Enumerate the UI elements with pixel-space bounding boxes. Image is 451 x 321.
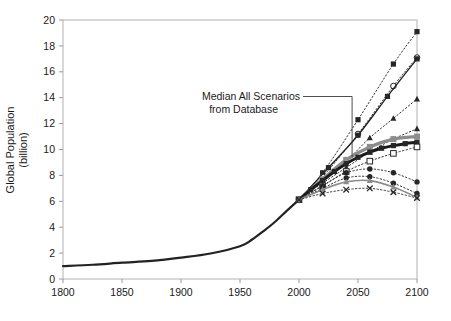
x-axis-tick-label: 2100 <box>405 286 429 298</box>
series-marker <box>403 141 408 146</box>
y-axis-tick-label: 14 <box>43 91 55 103</box>
y-axis-tick-label: 16 <box>43 65 55 77</box>
series-marker <box>344 170 349 175</box>
x-axis-tick-label: 1850 <box>110 286 134 298</box>
series-marker <box>320 178 325 183</box>
y-axis-title: Global Population(billion) <box>4 107 29 194</box>
series-marker <box>344 161 349 166</box>
series-marker <box>391 151 397 157</box>
series-marker <box>391 61 396 66</box>
series-marker <box>379 146 384 151</box>
series-marker <box>367 149 372 154</box>
x-axis-tick-label: 1950 <box>228 286 252 298</box>
y-axis-tick-label: 4 <box>49 221 55 233</box>
y-axis-tick-label: 10 <box>43 143 55 155</box>
series-line <box>63 200 299 266</box>
population-line-chart: 0246810121416182018001850190019502000205… <box>0 0 451 321</box>
series-marker <box>332 169 337 174</box>
series-marker <box>355 155 360 160</box>
series-marker <box>367 166 372 171</box>
y-axis-tick-label: 18 <box>43 40 55 52</box>
x-axis-tick-label: 2000 <box>287 286 311 298</box>
series-marker <box>414 96 420 102</box>
series-marker <box>391 170 396 175</box>
y-axis-tick-label: 6 <box>49 195 55 207</box>
median-annotation-leader-line <box>303 97 352 158</box>
series-marker <box>367 158 373 164</box>
series-marker <box>355 117 360 122</box>
x-axis-tick-label: 1800 <box>51 286 75 298</box>
y-axis-tick-label: 12 <box>43 117 55 129</box>
series-line <box>299 59 417 200</box>
x-axis-tick-label: 2050 <box>346 286 370 298</box>
series-marker <box>414 144 420 150</box>
series-marker <box>414 29 419 34</box>
series-marker <box>385 94 390 99</box>
series-marker <box>414 179 419 184</box>
series-marker <box>414 56 419 61</box>
series-marker <box>355 133 360 138</box>
series-marker <box>326 165 331 170</box>
chart-figure: 0246810121416182018001850190019502000205… <box>0 0 451 321</box>
median-annotation-line2: from Database <box>209 103 278 115</box>
series-marker <box>414 126 420 132</box>
series-line <box>299 58 417 200</box>
series-marker <box>390 115 396 121</box>
series-marker <box>414 134 420 140</box>
y-axis-tick-label: 0 <box>49 273 55 285</box>
series-marker <box>367 144 373 150</box>
median-annotation-line1: Median All Scenarios <box>202 90 300 102</box>
series-marker <box>390 136 396 142</box>
y-axis-tick-label: 8 <box>49 169 55 181</box>
y-axis-tick-label: 2 <box>49 247 55 259</box>
series-marker <box>391 143 396 148</box>
x-axis-tick-label: 1900 <box>169 286 193 298</box>
y-axis-tick-label: 20 <box>43 14 55 26</box>
